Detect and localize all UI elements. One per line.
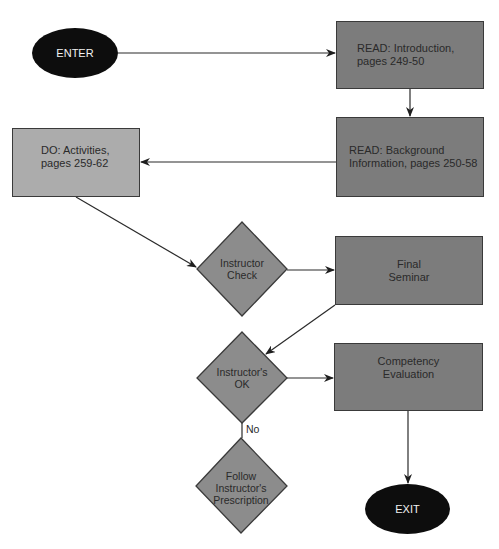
instructor-check-line1: Instructor	[220, 257, 264, 269]
exit-label: EXIT	[395, 503, 419, 516]
read-background-line1: READ: Background	[349, 144, 477, 157]
final-seminar-line1: Final	[389, 258, 430, 271]
instructor-check-label: Instructor Check	[220, 257, 264, 281]
follow-prescription-line3: Prescription	[213, 494, 268, 506]
arrow-seminar-to-ok	[266, 305, 335, 354]
instructor-check-line2: Check	[220, 269, 264, 281]
read-introduction-box[interactable]: READ: Introduction, pages 249-50	[336, 21, 484, 89]
arrow-activities-to-check	[76, 197, 196, 267]
do-activities-line2: pages 259-62	[41, 157, 109, 170]
competency-evaluation-line1: Competency	[378, 355, 440, 368]
enter-label: ENTER	[56, 47, 93, 60]
final-seminar-box[interactable]: Final Seminar	[335, 236, 483, 305]
final-seminar-line2: Seminar	[389, 271, 430, 284]
competency-evaluation-box[interactable]: Competency Evaluation	[334, 343, 483, 411]
follow-prescription-line1: Follow	[213, 470, 268, 482]
read-introduction-line2: pages 249-50	[357, 55, 454, 68]
read-background-line2: Information, pages 250-58	[349, 157, 477, 170]
instructors-ok-line1: Instructor's	[216, 366, 267, 378]
instructors-ok-label: Instructor's OK	[216, 366, 267, 390]
do-activities-box[interactable]: DO: Activities, pages 259-62	[12, 128, 140, 197]
competency-evaluation-line2: Evaluation	[378, 368, 440, 381]
follow-prescription-label: Follow Instructor's Prescription	[213, 470, 268, 506]
no-branch-label: No	[246, 423, 259, 435]
enter-terminal[interactable]: ENTER	[32, 28, 118, 78]
read-introduction-line1: READ: Introduction,	[357, 42, 454, 55]
do-activities-line1: DO: Activities,	[41, 144, 109, 157]
exit-terminal[interactable]: EXIT	[365, 484, 450, 534]
instructors-ok-line2: OK	[216, 378, 267, 390]
follow-prescription-line2: Instructor's	[213, 482, 268, 494]
read-background-box[interactable]: READ: Background Information, pages 250-…	[336, 117, 484, 197]
